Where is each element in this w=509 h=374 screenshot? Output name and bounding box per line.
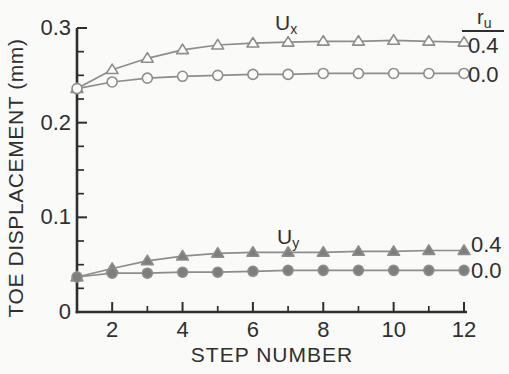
circle-solid-marker bbox=[459, 265, 469, 275]
toe-displacement-chart: 00.10.20.3246810120.40.00.40.0UxUyruSTEP… bbox=[0, 0, 509, 374]
x-tick-label: 8 bbox=[317, 317, 329, 342]
series-right-label: 0.4 bbox=[468, 33, 499, 58]
circle-open-marker bbox=[389, 68, 399, 78]
circle-open-marker bbox=[283, 69, 293, 79]
circle-solid-marker bbox=[353, 265, 363, 275]
y-tick-label: 0.1 bbox=[40, 204, 71, 229]
toe-displacement-figure: 00.10.20.3246810120.40.00.40.0UxUyruSTEP… bbox=[0, 0, 509, 374]
circle-open-marker bbox=[318, 68, 328, 78]
circle-open-marker bbox=[107, 77, 117, 87]
x-tick-label: 2 bbox=[106, 317, 118, 342]
circle-open-marker bbox=[248, 69, 258, 79]
x-tick-label: 12 bbox=[452, 317, 476, 342]
circle-solid-marker bbox=[318, 265, 328, 275]
circle-solid-marker bbox=[248, 266, 258, 276]
circle-open-marker bbox=[142, 73, 152, 83]
x-tick-label: 4 bbox=[176, 317, 188, 342]
circle-solid-marker bbox=[283, 265, 293, 275]
circle-open-marker bbox=[353, 68, 363, 78]
x-tick-label: 6 bbox=[247, 317, 259, 342]
circle-solid-marker bbox=[389, 265, 399, 275]
circle-solid-marker bbox=[107, 268, 117, 278]
series-right-label: 0.4 bbox=[471, 232, 502, 257]
circle-open-marker bbox=[424, 68, 434, 78]
y-tick-label: 0.2 bbox=[40, 110, 71, 135]
circle-solid-marker bbox=[142, 268, 152, 278]
x-axis-label: STEP NUMBER bbox=[191, 343, 353, 366]
circle-solid-marker bbox=[72, 272, 82, 282]
circle-solid-marker bbox=[424, 265, 434, 275]
circle-open-marker bbox=[178, 71, 188, 81]
circle-solid-marker bbox=[178, 267, 188, 277]
series-right-label: 0.0 bbox=[471, 258, 502, 283]
circle-solid-marker bbox=[213, 267, 223, 277]
y-tick-label: 0.3 bbox=[40, 15, 71, 40]
circle-open-marker bbox=[213, 70, 223, 80]
circle-open-marker bbox=[72, 84, 82, 94]
series-right-label: 0.0 bbox=[468, 62, 499, 87]
x-tick-label: 10 bbox=[381, 317, 405, 342]
y-axis-label: TOE DISPLACEMENT (mm) bbox=[4, 38, 27, 317]
y-tick-label: 0 bbox=[59, 299, 71, 324]
